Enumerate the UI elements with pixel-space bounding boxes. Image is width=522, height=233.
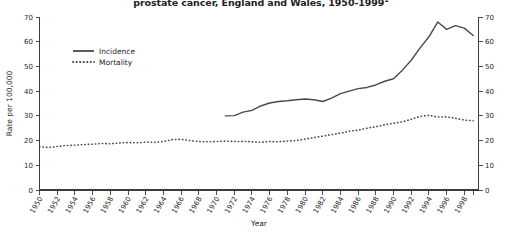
x-axis-tick-label: 1984 xyxy=(330,195,346,215)
chart-plot-area: 0102030405060700102030405060701950195219… xyxy=(0,0,522,233)
x-axis-tick-label: 1996 xyxy=(436,195,452,215)
x-axis-tick-label: 1972 xyxy=(223,196,239,215)
y-axis-left-tick-label: 20 xyxy=(24,137,33,145)
x-axis-tick-label: 1978 xyxy=(276,196,292,215)
x-axis-tick-label: 1986 xyxy=(347,195,363,215)
x-axis-tick-label: 1960 xyxy=(117,196,133,215)
y-axis-right-tick-label: 20 xyxy=(485,137,494,145)
x-axis-tick-label: 1956 xyxy=(82,195,98,215)
x-axis-title: Year xyxy=(250,219,268,228)
x-axis-tick-label: 1998 xyxy=(453,196,469,215)
x-axis-tick-label: 1962 xyxy=(135,196,151,215)
y-axis-left-tick-label: 40 xyxy=(24,88,33,96)
chart-container: prostate cancer, England and Wales, 1950… xyxy=(0,0,522,233)
x-axis-tick-label: 1950 xyxy=(29,196,45,215)
y-axis-left-tick-label: 60 xyxy=(24,38,33,46)
y-axis-left-tick-label: 10 xyxy=(24,162,33,170)
x-axis-tick-label: 1980 xyxy=(294,196,310,215)
x-axis-tick-label: 1990 xyxy=(383,196,399,215)
y-axis-right-tick-label: 70 xyxy=(485,14,494,22)
x-axis-tick-label: 1958 xyxy=(99,196,115,215)
y-axis-left-tick-label: 70 xyxy=(24,14,33,22)
x-axis-tick-label: 1988 xyxy=(365,196,381,215)
x-axis-tick-label: 1964 xyxy=(153,195,169,215)
series-line-incidence xyxy=(225,22,473,116)
x-axis-tick-label: 1976 xyxy=(259,195,275,215)
legend-label-incidence: Incidence xyxy=(99,47,135,56)
x-axis-tick-label: 1966 xyxy=(170,195,186,215)
y-axis-left-tick-label: 50 xyxy=(24,63,33,71)
series-line-mortality xyxy=(40,115,474,147)
x-axis-tick-label: 1992 xyxy=(400,196,416,215)
legend-label-mortality: Mortality xyxy=(99,58,133,67)
y-axis-right-tick-label: 50 xyxy=(485,63,494,71)
x-axis-tick-label: 1974 xyxy=(241,195,257,215)
x-axis-tick-label: 1952 xyxy=(46,196,62,215)
x-axis-tick-label: 1954 xyxy=(64,195,80,215)
y-axis-right-tick-label: 10 xyxy=(485,162,494,170)
x-axis-tick-label: 1970 xyxy=(206,196,222,215)
x-axis-tick-label: 1994 xyxy=(418,195,434,215)
y-axis-left-tick-label: 30 xyxy=(24,112,33,120)
y-axis-title: Rate per 100,000 xyxy=(5,71,14,137)
y-axis-right-tick-label: 40 xyxy=(485,88,494,96)
y-axis-right-tick-label: 30 xyxy=(485,112,494,120)
y-axis-left-tick-label: 0 xyxy=(29,187,33,195)
y-axis-right-tick-label: 60 xyxy=(485,38,494,46)
y-axis-right-tick-label: 0 xyxy=(485,187,489,195)
x-axis-tick-label: 1968 xyxy=(188,196,204,215)
x-axis-tick-label: 1982 xyxy=(312,196,328,215)
